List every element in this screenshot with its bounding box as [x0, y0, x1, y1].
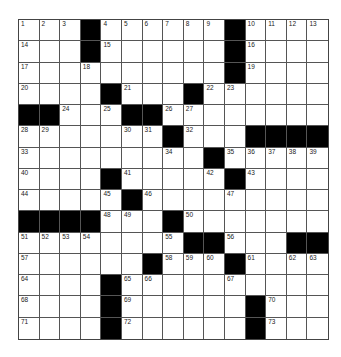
grid-cell[interactable] [101, 233, 122, 254]
grid-cell[interactable] [184, 148, 205, 169]
grid-cell[interactable] [60, 84, 81, 105]
grid-cell[interactable]: 20 [19, 84, 40, 105]
grid-cell[interactable]: 36 [246, 148, 267, 169]
grid-cell[interactable] [246, 211, 267, 232]
grid-cell[interactable] [287, 190, 308, 211]
grid-cell[interactable] [60, 126, 81, 147]
grid-cell[interactable] [246, 190, 267, 211]
grid-cell[interactable]: 6 [143, 20, 164, 41]
grid-cell[interactable] [287, 296, 308, 317]
grid-cell[interactable] [40, 254, 61, 275]
grid-cell[interactable]: 47 [225, 190, 246, 211]
grid-cell[interactable] [143, 169, 164, 190]
grid-cell[interactable] [287, 275, 308, 296]
grid-cell[interactable] [307, 211, 328, 232]
grid-cell[interactable]: 49 [122, 211, 143, 232]
grid-cell[interactable] [307, 275, 328, 296]
grid-cell[interactable] [143, 318, 164, 339]
grid-cell[interactable] [266, 84, 287, 105]
grid-cell[interactable] [60, 148, 81, 169]
grid-cell[interactable]: 25 [101, 105, 122, 126]
grid-cell[interactable] [143, 41, 164, 62]
grid-cell[interactable] [225, 318, 246, 339]
grid-cell[interactable] [184, 275, 205, 296]
grid-cell[interactable]: 33 [19, 148, 40, 169]
grid-cell[interactable]: 48 [101, 211, 122, 232]
grid-cell[interactable] [266, 275, 287, 296]
grid-cell[interactable]: 28 [19, 126, 40, 147]
grid-cell[interactable] [60, 63, 81, 84]
grid-cell[interactable] [307, 190, 328, 211]
grid-cell[interactable]: 9 [204, 20, 225, 41]
grid-cell[interactable] [307, 169, 328, 190]
grid-cell[interactable] [204, 275, 225, 296]
grid-cell[interactable]: 66 [143, 275, 164, 296]
grid-cell[interactable] [184, 63, 205, 84]
grid-cell[interactable] [143, 84, 164, 105]
grid-cell[interactable]: 63 [307, 254, 328, 275]
grid-cell[interactable]: 53 [60, 233, 81, 254]
grid-cell[interactable] [204, 41, 225, 62]
grid-cell[interactable]: 1 [19, 20, 40, 41]
grid-cell[interactable]: 68 [19, 296, 40, 317]
grid-cell[interactable] [287, 41, 308, 62]
grid-cell[interactable] [204, 126, 225, 147]
grid-cell[interactable] [81, 148, 102, 169]
grid-cell[interactable] [122, 63, 143, 84]
grid-cell[interactable] [122, 233, 143, 254]
grid-cell[interactable]: 31 [143, 126, 164, 147]
grid-cell[interactable]: 54 [81, 233, 102, 254]
grid-cell[interactable] [246, 84, 267, 105]
grid-cell[interactable]: 34 [163, 148, 184, 169]
grid-cell[interactable] [81, 318, 102, 339]
grid-cell[interactable]: 17 [19, 63, 40, 84]
grid-cell[interactable] [287, 318, 308, 339]
grid-cell[interactable]: 65 [122, 275, 143, 296]
grid-cell[interactable] [40, 84, 61, 105]
grid-cell[interactable]: 13 [307, 20, 328, 41]
grid-cell[interactable]: 61 [246, 254, 267, 275]
grid-cell[interactable] [246, 275, 267, 296]
grid-cell[interactable] [163, 169, 184, 190]
grid-cell[interactable]: 4 [101, 20, 122, 41]
grid-cell[interactable] [60, 41, 81, 62]
grid-cell[interactable]: 2 [40, 20, 61, 41]
grid-cell[interactable] [122, 254, 143, 275]
grid-cell[interactable]: 44 [19, 190, 40, 211]
grid-cell[interactable] [163, 63, 184, 84]
grid-cell[interactable] [266, 190, 287, 211]
grid-cell[interactable]: 64 [19, 275, 40, 296]
grid-cell[interactable]: 67 [225, 275, 246, 296]
grid-cell[interactable]: 42 [204, 169, 225, 190]
grid-cell[interactable] [163, 190, 184, 211]
grid-cell[interactable] [143, 233, 164, 254]
grid-cell[interactable] [40, 275, 61, 296]
grid-cell[interactable] [81, 190, 102, 211]
grid-cell[interactable] [266, 233, 287, 254]
grid-cell[interactable] [81, 84, 102, 105]
grid-cell[interactable] [40, 169, 61, 190]
grid-cell[interactable]: 40 [19, 169, 40, 190]
grid-cell[interactable]: 7 [163, 20, 184, 41]
grid-cell[interactable] [204, 211, 225, 232]
grid-cell[interactable]: 59 [184, 254, 205, 275]
grid-cell[interactable]: 69 [122, 296, 143, 317]
grid-cell[interactable] [307, 296, 328, 317]
grid-cell[interactable] [307, 84, 328, 105]
grid-cell[interactable] [184, 169, 205, 190]
grid-cell[interactable]: 71 [19, 318, 40, 339]
grid-cell[interactable]: 73 [266, 318, 287, 339]
grid-cell[interactable] [307, 63, 328, 84]
grid-cell[interactable]: 45 [101, 190, 122, 211]
grid-cell[interactable] [184, 296, 205, 317]
grid-cell[interactable]: 23 [225, 84, 246, 105]
grid-cell[interactable]: 57 [19, 254, 40, 275]
grid-cell[interactable] [81, 169, 102, 190]
grid-cell[interactable] [287, 84, 308, 105]
grid-cell[interactable]: 43 [246, 169, 267, 190]
grid-cell[interactable]: 50 [184, 211, 205, 232]
grid-cell[interactable] [163, 275, 184, 296]
grid-cell[interactable] [40, 190, 61, 211]
grid-cell[interactable]: 14 [19, 41, 40, 62]
grid-cell[interactable]: 8 [184, 20, 205, 41]
